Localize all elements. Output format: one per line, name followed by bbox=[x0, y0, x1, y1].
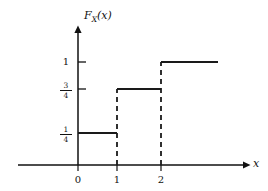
y-axis-label-f: F bbox=[84, 9, 92, 22]
y-axis-label: FX(x) bbox=[84, 10, 112, 24]
x-axis-arrowhead bbox=[243, 161, 251, 168]
fraction-denominator: 4 bbox=[60, 91, 72, 99]
fraction-numerator: 3 bbox=[60, 82, 72, 91]
x-tick-label-2: 2 bbox=[155, 175, 167, 185]
y-axis-arrowhead bbox=[74, 26, 81, 34]
x-tick-label-1: 1 bbox=[111, 175, 123, 185]
fraction-numerator: 1 bbox=[60, 126, 72, 135]
y-tick-label-one-quarter: 1 4 bbox=[60, 126, 72, 144]
x-axis-label: x bbox=[253, 158, 259, 169]
y-tick-label-three-quarters: 3 4 bbox=[60, 82, 72, 100]
y-axis-label-argument: (x) bbox=[97, 9, 112, 22]
cdf-step-function-figure: FX(x) x 1 3 4 1 4 0 1 2 bbox=[0, 0, 268, 191]
x-tick-label-0: 0 bbox=[72, 175, 84, 185]
y-tick-label-1: 1 bbox=[60, 57, 72, 67]
plot-canvas bbox=[0, 0, 268, 191]
fraction-denominator: 4 bbox=[60, 135, 72, 143]
